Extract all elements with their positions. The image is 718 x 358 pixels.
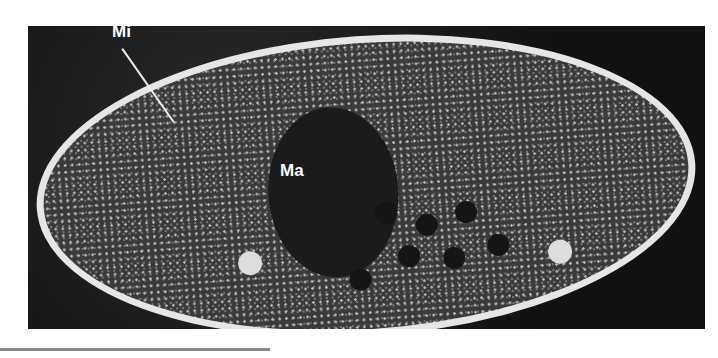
label-macronucleus: Ma	[280, 161, 304, 181]
food-vacuole	[454, 200, 477, 223]
contractile-vacuole	[237, 250, 263, 276]
contractile-vacuole	[547, 239, 573, 265]
macronucleus	[263, 103, 405, 282]
paramecium-cell	[28, 26, 705, 329]
food-vacuole	[415, 213, 438, 236]
micrograph-image: Mi Ma	[28, 26, 705, 329]
divider	[0, 348, 270, 351]
label-micronucleus: Mi	[112, 26, 131, 42]
food-vacuole	[349, 268, 372, 291]
food-vacuole	[397, 244, 420, 267]
food-vacuole	[487, 233, 510, 256]
food-vacuole	[442, 246, 465, 269]
